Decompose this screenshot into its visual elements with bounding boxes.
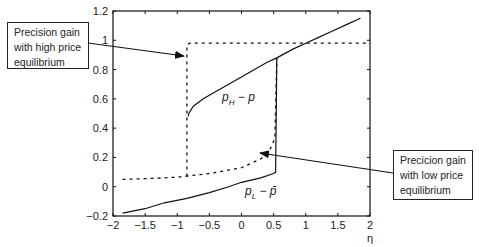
series-line-2 bbox=[187, 43, 370, 176]
series-line-1 bbox=[123, 58, 277, 213]
label-pl-minus-pbar: pL − p̄ bbox=[244, 184, 277, 201]
series-line-3 bbox=[123, 58, 277, 179]
y-tick-label: −0.2 bbox=[86, 210, 108, 222]
callout-line: with high price bbox=[14, 40, 82, 55]
x-tick-label: −2 bbox=[107, 219, 120, 231]
y-tick-label: 0.2 bbox=[93, 151, 108, 163]
plot-axes: −2−1.5−1−0.500.511.52−0.200.20.40.60.811… bbox=[86, 5, 373, 231]
x-tick-label: 1.5 bbox=[330, 219, 345, 231]
arrow-high-price bbox=[88, 43, 184, 56]
y-tick-label: 0.8 bbox=[93, 64, 108, 76]
callout-low-price: Precicion gain with low price equilibriu… bbox=[393, 150, 473, 200]
callout-line: Precicion gain bbox=[400, 153, 466, 168]
x-tick-label: −0.5 bbox=[199, 219, 221, 231]
arrow-low-price bbox=[260, 153, 393, 173]
y-tick-label: 0.4 bbox=[93, 122, 108, 134]
x-axis-label: η bbox=[367, 232, 373, 244]
callout-line: with low price bbox=[400, 168, 466, 183]
y-tick-label: 0 bbox=[102, 181, 108, 193]
x-tick-label: 0 bbox=[238, 219, 244, 231]
callout-line: equilibrium bbox=[14, 55, 82, 70]
callout-high-price: Precision gain with high price equilibri… bbox=[7, 22, 89, 69]
callout-line: equilibrium bbox=[400, 183, 466, 198]
plot-frame bbox=[113, 11, 370, 216]
x-tick-label: 2 bbox=[367, 219, 373, 231]
callout-line: Precision gain bbox=[14, 25, 82, 40]
annotation-arrows bbox=[88, 43, 393, 173]
y-tick-label: 0.6 bbox=[93, 93, 108, 105]
x-tick-label: 1 bbox=[303, 219, 309, 231]
x-tick-label: −1.5 bbox=[134, 219, 156, 231]
x-tick-label: −1 bbox=[171, 219, 184, 231]
x-tick-label: 0.5 bbox=[266, 219, 281, 231]
series-line-0 bbox=[188, 18, 360, 116]
y-tick-label: 1.2 bbox=[93, 5, 108, 17]
label-ph-minus-p: pH − p bbox=[221, 90, 255, 107]
